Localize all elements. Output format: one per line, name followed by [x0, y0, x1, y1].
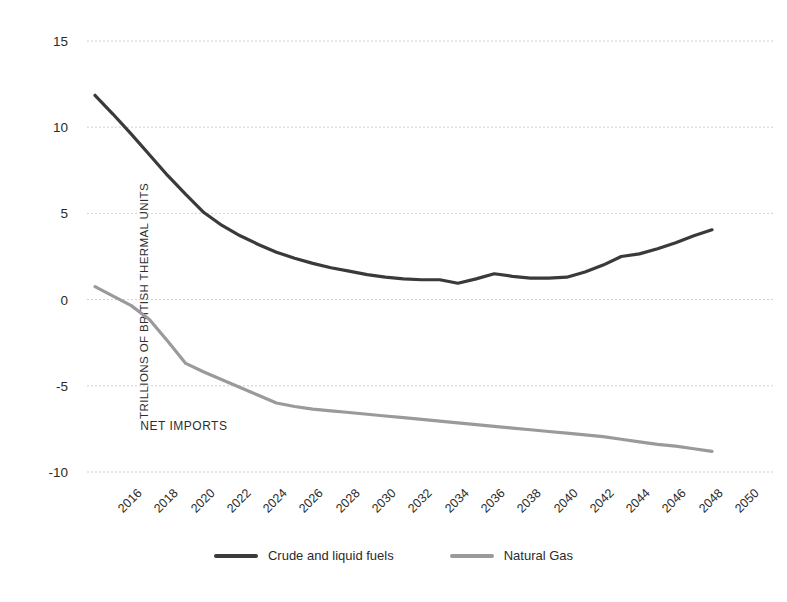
x-tick-label: 2020	[188, 486, 218, 516]
x-tick-label: 2028	[333, 486, 363, 516]
x-tick-label: 2016	[115, 486, 145, 516]
legend-swatch-icon	[450, 554, 494, 558]
x-tick-label: 2040	[551, 486, 581, 516]
x-tick-label: 2036	[478, 486, 508, 516]
x-tick-label: 2026	[297, 486, 327, 516]
legend-item[interactable]: Crude and liquid fuels	[214, 548, 394, 563]
net-imports-annotation: NET IMPORTS	[140, 419, 227, 433]
x-tick-label: 2022	[224, 486, 254, 516]
x-tick-label: 2044	[623, 486, 653, 516]
x-tick-label: 2024	[260, 486, 290, 516]
legend-label: Natural Gas	[504, 548, 573, 563]
x-tick-label: 2050	[732, 486, 762, 516]
x-tick-label: 2042	[587, 486, 617, 516]
x-tick-label: 2018	[151, 486, 181, 516]
x-tick-label: 2034	[442, 486, 472, 516]
x-tick-label: 2030	[369, 486, 399, 516]
legend-label: Crude and liquid fuels	[268, 548, 394, 563]
legend-item[interactable]: Natural Gas	[450, 548, 573, 563]
x-tick-label: 2048	[696, 486, 726, 516]
x-axis-ticks: 2016201820202022202420262028203020322034…	[0, 0, 787, 602]
legend-swatch-icon	[214, 554, 258, 558]
line-chart: TRILLIONS OF BRITISH THERMAL UNITS 15105…	[0, 0, 787, 602]
x-tick-label: 2046	[660, 486, 690, 516]
x-tick-label: 2032	[405, 486, 435, 516]
x-tick-label: 2038	[514, 486, 544, 516]
chart-legend: Crude and liquid fuelsNatural Gas	[0, 548, 787, 563]
